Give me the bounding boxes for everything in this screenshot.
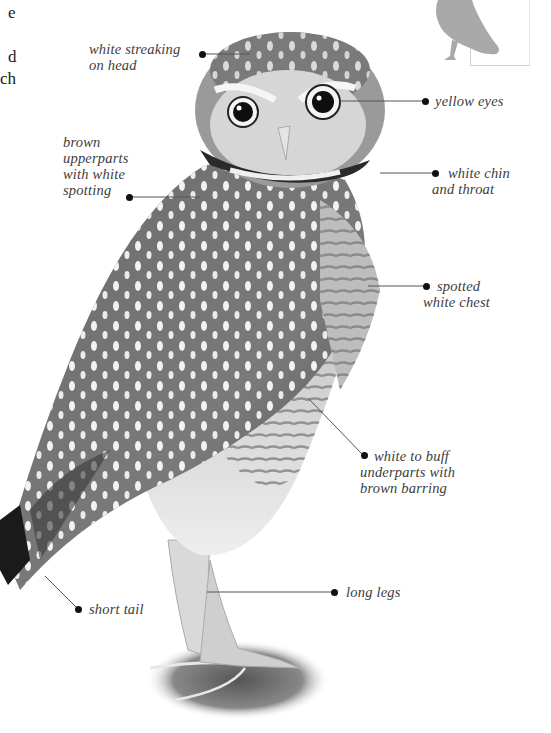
callout-legs: long legs bbox=[346, 584, 401, 600]
callout-line: white chin bbox=[432, 165, 510, 181]
callout-line: yellow eyes bbox=[435, 93, 504, 109]
callout-eyes: yellow eyes bbox=[435, 93, 504, 109]
callout-upperparts: brown upperparts with white spotting bbox=[63, 134, 129, 198]
callout-tail: short tail bbox=[89, 601, 144, 617]
callout-line: underparts with bbox=[360, 464, 455, 480]
leader-lines bbox=[0, 0, 551, 733]
callout-dot-legs bbox=[331, 589, 338, 596]
callout-chest: spotted white chest bbox=[423, 278, 490, 310]
callout-line: white streaking bbox=[89, 41, 180, 57]
callout-line: white chest bbox=[423, 294, 490, 310]
callout-underparts: white to buff underparts with brown barr… bbox=[360, 448, 455, 496]
callout-line: brown barring bbox=[360, 480, 455, 496]
callout-dot-head bbox=[199, 51, 206, 58]
callout-line: brown bbox=[63, 134, 129, 150]
callout-line: spotted bbox=[423, 278, 490, 294]
callout-line: white to buff bbox=[360, 448, 455, 464]
callout-head: white streaking on head bbox=[89, 41, 180, 73]
callout-line: short tail bbox=[89, 601, 144, 617]
callout-line: spotting bbox=[63, 182, 129, 198]
field-guide-page: e d ch bbox=[0, 0, 551, 733]
callout-line: upperparts bbox=[63, 150, 129, 166]
callout-line: long legs bbox=[346, 584, 401, 600]
callout-line: with white bbox=[63, 166, 129, 182]
callout-line: and throat bbox=[432, 181, 510, 197]
callout-dot-tail bbox=[75, 606, 82, 613]
callout-chin: white chin and throat bbox=[432, 165, 510, 197]
callout-dot-eyes bbox=[422, 98, 429, 105]
callout-line: on head bbox=[89, 57, 180, 73]
